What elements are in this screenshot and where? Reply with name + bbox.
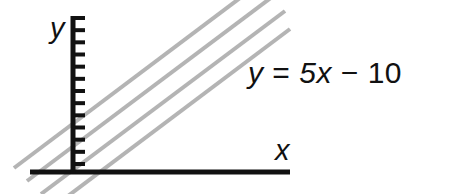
equation-equals-sign: =	[272, 56, 290, 89]
equation-annotation: y = 5x − 10	[248, 56, 402, 90]
equation-intercept: 10	[368, 56, 402, 89]
equation-slope-term: 5x	[299, 56, 332, 89]
x-axis-label: x	[275, 134, 290, 167]
graph-figure: y x y = 5x − 10	[0, 0, 452, 194]
equation-lhs: y	[248, 56, 264, 89]
graph-canvas	[0, 0, 452, 194]
graph-line	[60, 29, 290, 194]
y-axis-label: y	[50, 12, 65, 45]
equation-operator: −	[341, 56, 359, 89]
